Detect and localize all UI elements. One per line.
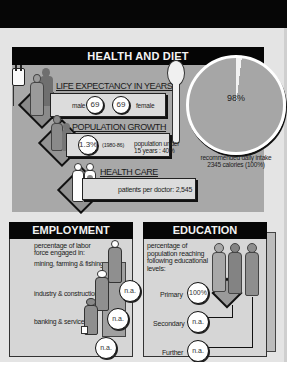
calorie-intake-pie-chart — [186, 55, 286, 155]
sector-industry-label: industry & construction — [34, 290, 98, 297]
briefcase-icon — [81, 326, 88, 334]
farmer-figure-icon — [108, 240, 122, 285]
female-label: female — [136, 102, 154, 109]
sector-mining-value: n.a. — [119, 280, 141, 302]
level-further-value: n.a. — [187, 340, 209, 362]
level-primary-value: 100% — [187, 282, 209, 304]
bottom-margin — [0, 362, 295, 375]
level-secondary-value: n.a. — [187, 311, 209, 333]
level-secondary-label: Secondary — [153, 320, 185, 327]
population-under-15: population under 15 years : 40% — [134, 140, 179, 154]
top-black-bar — [0, 0, 287, 28]
education-title: EDUCATION — [143, 222, 267, 239]
sector-banking-label: banking & services — [34, 318, 87, 325]
population-growth-label: POPULATION GROWTH — [72, 122, 166, 132]
education-intro: percentage of population reaching follow… — [147, 242, 208, 272]
clipboard-icon — [12, 68, 25, 86]
population-growth-period: (1980-86) — [102, 142, 124, 149]
employment-title: EMPLOYMENT — [9, 222, 133, 239]
sector-industry-value: n.a. — [107, 308, 129, 330]
employment-intro: percentage of labor force engaged in: — [34, 242, 91, 256]
diet-caption: recommended daily intake 2345 calories (… — [191, 154, 281, 168]
banker-figure-icon — [84, 298, 98, 340]
page-edge — [284, 28, 287, 375]
level-primary-label: Primary — [160, 291, 183, 298]
student-figure-secondary-icon — [228, 243, 242, 295]
sector-banking-value: n.a. — [95, 337, 117, 359]
patients-per-doctor: patients per doctor: 2,545 — [118, 186, 192, 193]
family-figures-icon — [30, 68, 52, 118]
male-label: male — [72, 102, 85, 109]
population-growth-value: 1.3% — [78, 135, 98, 155]
student-figure-primary-icon — [212, 243, 226, 293]
level-further-label: Further — [162, 349, 183, 356]
spoon-handle-icon — [172, 84, 180, 144]
sector-mining-label: mining, farming & fishing — [34, 260, 103, 267]
student-figure-further-icon — [245, 243, 259, 297]
life-expectancy-label: LIFE EXPECTANCY IN YEARS — [56, 81, 172, 91]
male-life-expectancy-value: 69 — [86, 96, 104, 114]
education-panel-shadow — [266, 232, 276, 352]
pie-value-label: 98% — [227, 93, 245, 103]
female-life-expectancy-value: 69 — [112, 96, 130, 114]
health-care-label: HEALTH CARE — [100, 167, 158, 177]
